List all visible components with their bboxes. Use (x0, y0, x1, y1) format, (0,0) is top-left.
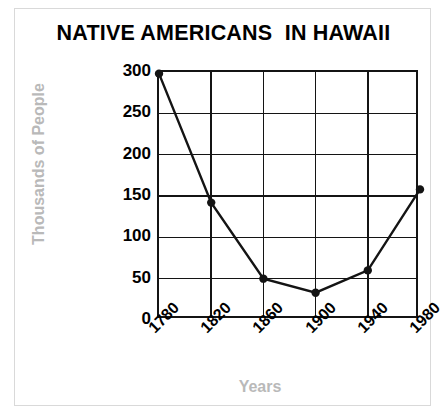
gridline-horizontal (159, 195, 416, 197)
page-title: NATIVE AMERICANS IN HAWAII (15, 21, 432, 46)
y-tick-label: 150 (99, 186, 151, 203)
gridline-horizontal (159, 113, 416, 115)
gridline-vertical (367, 72, 369, 316)
y-tick-label: 300 (99, 62, 151, 79)
y-tick-label: 100 (99, 227, 151, 244)
data-point-marker (155, 69, 163, 77)
y-tick-label: 200 (99, 145, 151, 162)
x-axis-tick-labels: 178018201860190019401980 (157, 318, 418, 378)
gridline-horizontal (159, 237, 416, 239)
y-axis-tick-labels: 300250200150100500 (93, 70, 151, 318)
plot-area (157, 70, 418, 318)
y-tick-label: 250 (99, 103, 151, 120)
gridline-horizontal (159, 154, 416, 156)
y-tick-label: 0 (99, 310, 151, 327)
y-axis-label: Thousands of People (30, 54, 48, 274)
gridline-horizontal (159, 278, 416, 280)
data-line (159, 74, 420, 293)
x-axis-label: Years (145, 378, 375, 396)
chart-card: NATIVE AMERICANS IN HAWAII Thousands of … (14, 8, 431, 406)
gridline-vertical (210, 72, 212, 316)
y-tick-label: 50 (99, 269, 151, 286)
data-point-marker (416, 185, 424, 193)
gridline-vertical (263, 72, 265, 316)
gridline-vertical (315, 72, 317, 316)
